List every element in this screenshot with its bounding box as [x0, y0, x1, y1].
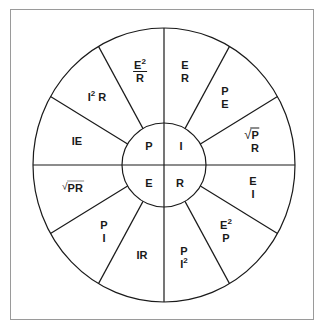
segment-e-over-r: E R: [181, 59, 189, 85]
segment-e-over-i: E I: [249, 175, 256, 201]
spoke-150: [51, 97, 128, 145]
segment-ir: IR: [137, 249, 148, 262]
spoke-30: [200, 97, 277, 145]
inner-label-power: P: [145, 140, 152, 153]
inner-label-current: I: [179, 140, 182, 153]
segment-e2-over-p: E2 P: [220, 219, 232, 245]
spoke-330: [200, 186, 277, 234]
segment-p-over-i: P I: [100, 219, 107, 245]
segment-ie: IE: [72, 135, 82, 148]
inner-label-voltage: E: [145, 177, 152, 190]
segment-sqrt-pr: √ PR: [62, 180, 84, 195]
segment-p-over-e: P E: [221, 85, 228, 111]
segment-sqrt-p-over-r: √ P R: [244, 128, 259, 155]
segment-p-over-i2: P I2: [180, 245, 188, 271]
ohms-law-wheel: [0, 0, 323, 329]
segment-i2r: I2 R: [88, 91, 107, 104]
inner-label-resistance: R: [176, 177, 184, 190]
segment-e2-over-r: E2 R: [133, 59, 147, 85]
